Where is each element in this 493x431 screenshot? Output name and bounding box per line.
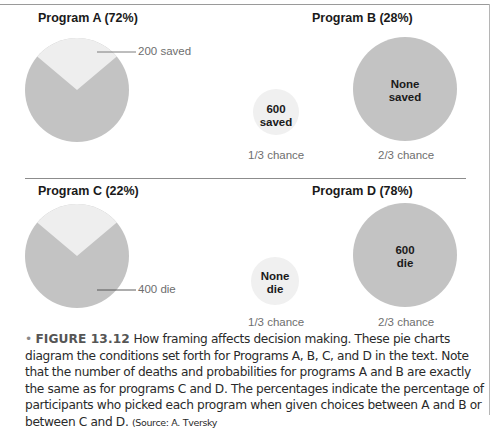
program-d-big-label: 600 die: [380, 244, 430, 270]
pie-charts-graphic: [0, 0, 493, 330]
program-b-small-chance: 1/3 chance: [248, 149, 304, 161]
program-b-title: Program B (28%): [312, 11, 413, 25]
caption-bullet-icon: •: [25, 332, 32, 346]
program-a-title: Program A (72%): [38, 11, 138, 25]
program-c-label: 400 die: [138, 283, 176, 295]
program-d-title: Program D (78%): [312, 184, 413, 198]
program-b-big-label: None saved: [380, 78, 430, 104]
figure-label: FIGURE 13.12: [35, 332, 129, 346]
program-d-small-label: None die: [250, 270, 300, 296]
program-d-big-chance: 2/3 chance: [378, 316, 434, 328]
figure-caption: • FIGURE 13.12 How framing affects decis…: [25, 331, 485, 431]
program-c-title: Program C (22%): [38, 184, 139, 198]
caption-text: How framing affects decision making. The…: [25, 332, 484, 429]
caption-source: (Source: A. Tversky: [132, 417, 217, 428]
program-d-small-chance: 1/3 chance: [248, 316, 304, 328]
program-a-label: 200 saved: [138, 45, 191, 57]
program-b-big-chance: 2/3 chance: [378, 149, 434, 161]
program-b-small-label: 600 saved: [251, 103, 301, 129]
pie-program-c: [25, 204, 136, 308]
pie-program-a: [25, 38, 136, 142]
section-divider: [25, 178, 466, 179]
